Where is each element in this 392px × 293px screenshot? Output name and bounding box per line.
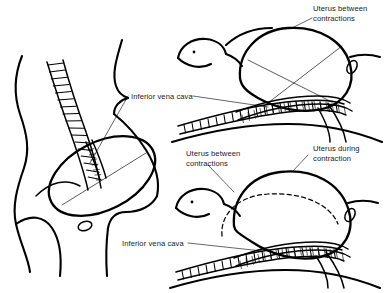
eye-dot-icon-bottom (191, 201, 194, 204)
vertebral-column (47, 60, 101, 190)
inferior-vena-cava-bottom (234, 242, 350, 269)
navel-oval-icon-top (345, 59, 360, 76)
label-uterus-between-top: Uterus between contractions (313, 4, 367, 23)
torso-top-contour (226, 28, 272, 45)
pelvic-floor-line (36, 182, 80, 196)
illustration-canvas: .s{fill:none;stroke:#000;stroke-linecap:… (0, 0, 392, 293)
panel-supine-between (172, 18, 382, 142)
right-flank-top (350, 55, 380, 57)
eye-dot-icon-top (193, 51, 196, 54)
chest-contour (114, 40, 128, 98)
neck-line-top (226, 54, 242, 66)
label-uterus-between-mid: Uterus between contractions (186, 149, 240, 168)
jaw-outline-top (178, 58, 211, 67)
uterus-left (36, 120, 168, 232)
leader-vena-cava-left (90, 96, 128, 163)
head-outline-top (178, 39, 226, 58)
neck-line-bottom (224, 204, 240, 216)
uterus-between-contractions (240, 28, 352, 111)
leader-uterus-between-mid (208, 165, 234, 192)
breast-contour (114, 98, 128, 114)
back-bed-contour-top (172, 124, 382, 142)
panel-supine-during (170, 155, 380, 288)
cervix-oval (77, 220, 93, 233)
label-uterus-during: Uterus during contraction (313, 144, 360, 163)
jaw-outline-bottom (176, 208, 209, 217)
back-contour (15, 56, 30, 272)
back-bed-contour-bottom (170, 270, 380, 288)
head-outline-bottom (176, 189, 224, 208)
label-vena-cava-left: Inferior vena cava (131, 92, 193, 102)
leader-uterus-between-top (292, 18, 312, 28)
label-vena-cava-bottom: Inferior vena cava (122, 239, 184, 249)
inferior-vena-cava-left (86, 140, 106, 180)
leader-uterus-during (292, 155, 308, 172)
right-flank-bottom (348, 201, 378, 203)
abdomen-front-contour (114, 114, 158, 196)
leader-vena-cava-bottom (188, 243, 262, 251)
